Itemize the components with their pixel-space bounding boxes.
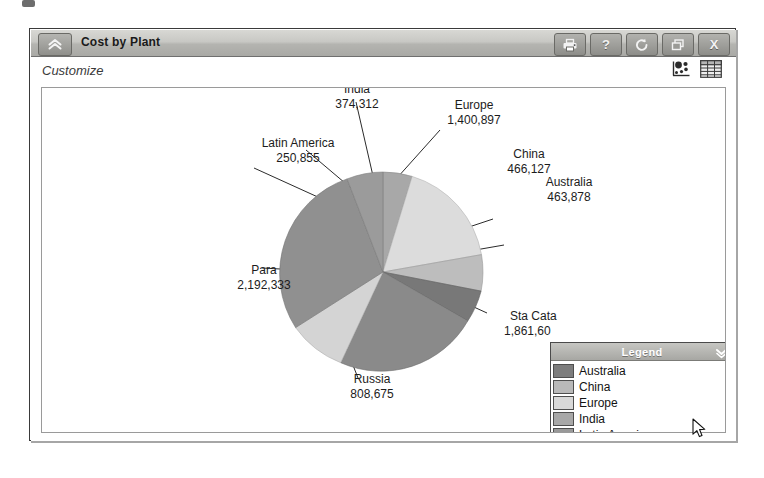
legend-title: Legend: [622, 346, 663, 358]
help-button[interactable]: ?: [590, 33, 622, 56]
callout-label-para: Para: [251, 263, 277, 277]
refresh-button[interactable]: [626, 33, 658, 56]
close-x-icon: X: [710, 38, 719, 51]
callout-label-latin-america: Latin America: [262, 136, 335, 150]
question-mark-icon: ?: [602, 38, 610, 51]
legend-item-europe[interactable]: Europe: [553, 395, 726, 411]
screenshot-root: Cost by Plant ?: [0, 0, 764, 478]
grid-view-icon[interactable]: [700, 60, 722, 82]
legend-item-india[interactable]: India: [553, 411, 726, 427]
restore-window-icon: [670, 38, 686, 52]
callout-label-sta-catarina: Sta Cata: [510, 309, 557, 323]
callout-label-australia: Australia: [546, 175, 593, 189]
legend-swatch-icon: [553, 380, 574, 394]
chart-window: Cost by Plant ?: [29, 28, 736, 441]
legend-item-label: Europe: [579, 396, 618, 410]
callout-value-australia: 463,878: [547, 190, 591, 204]
content-toolbar: Customize: [31, 57, 736, 87]
legend-item-label: Australia: [579, 364, 626, 378]
window-title: Cost by Plant: [81, 35, 160, 49]
legend-header: Legend: [551, 343, 726, 361]
top-edge-artifact: [22, 0, 35, 7]
legend-item-label: India: [579, 412, 605, 426]
window-content: Customize: [31, 57, 736, 441]
callout-label-europe: Europe: [455, 98, 494, 112]
callout-value-india: 374,312: [335, 97, 379, 111]
titlebar-button-group: ?: [554, 33, 730, 56]
callout-value-russia: 808,675: [350, 387, 394, 401]
toolbar-icon-group: [672, 60, 722, 82]
legend-swatch-icon: [553, 396, 574, 410]
legend-panel[interactable]: Legend Australia: [550, 342, 726, 433]
callout-label-india: India: [344, 88, 370, 96]
pie-slices[interactable]: [280, 172, 483, 371]
close-button[interactable]: X: [698, 33, 730, 56]
callout-value-europe: 1,400,897: [447, 113, 501, 127]
legend-swatch-icon: [553, 364, 574, 378]
callout-value-para: 2,192,333: [237, 278, 291, 292]
legend-item-australia[interactable]: Australia: [553, 363, 726, 379]
refresh-icon: [634, 38, 650, 52]
printer-icon: [562, 38, 578, 52]
legend-item-label: China: [579, 380, 610, 394]
callout-value-latin-america: 250,855: [276, 151, 320, 165]
collapse-panel-button[interactable]: [38, 33, 72, 56]
callout-label-china: China: [513, 147, 545, 161]
chart-viewport: India 374,312 Europe 1,400,897 China 466…: [41, 87, 726, 433]
legend-swatch-icon: [553, 428, 574, 433]
restore-button[interactable]: [662, 33, 694, 56]
legend-item-china[interactable]: China: [553, 379, 726, 395]
double-chevron-up-icon: [47, 38, 63, 51]
callout-value-china: 466,127: [507, 162, 551, 176]
print-button[interactable]: [554, 33, 586, 56]
legend-body: Australia China Europe India: [551, 361, 726, 433]
window-titlebar: Cost by Plant ?: [31, 30, 736, 57]
callout-value-sta-catarina: 1,861,60: [504, 324, 551, 338]
legend-item-label: Latin America: [579, 428, 652, 433]
chart-view-icon[interactable]: [672, 60, 691, 82]
customize-link[interactable]: Customize: [42, 63, 103, 78]
legend-swatch-icon: [553, 412, 574, 426]
legend-item-latin-america[interactable]: Latin America: [553, 427, 726, 433]
callout-label-russia: Russia: [354, 372, 391, 386]
